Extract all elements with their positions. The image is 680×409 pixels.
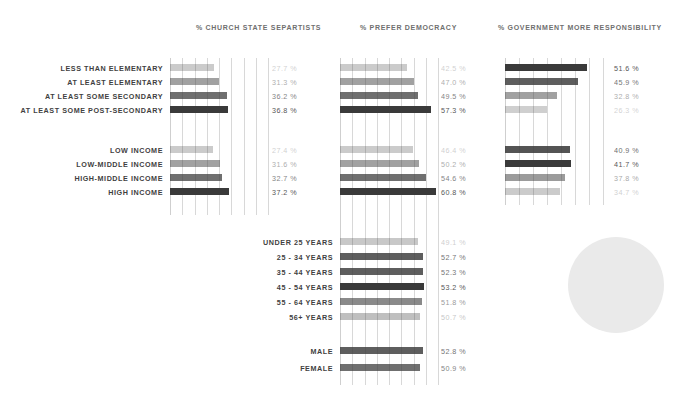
bar-value-gov_responsibility-1: 45.9 % — [614, 78, 639, 87]
bar-value-prefer_democracy-13: 50.7 % — [441, 313, 466, 322]
bar-value-prefer_democracy-8: 49.1 % — [441, 238, 466, 247]
row-label-age-4: 55 - 64 YEARS — [277, 298, 333, 307]
bar-value-gov_responsibility-7: 34.7 % — [614, 188, 639, 197]
row-label-age-1: 25 - 34 YEARS — [277, 253, 333, 262]
bar-gov_responsibility-3 — [505, 106, 547, 113]
row-label-education-3: AT LEAST SOME POST-SECONDARY — [21, 106, 163, 115]
bar-prefer_democracy-8 — [340, 238, 418, 245]
bar-value-gov_responsibility-2: 32.8 % — [614, 92, 639, 101]
bar-value-gov_responsibility-5: 41.7 % — [614, 160, 639, 169]
bar-value-prefer_democracy-9: 52.7 % — [441, 253, 466, 262]
bar-value-prefer_democracy-12: 51.8 % — [441, 298, 466, 307]
bar-prefer_democracy-15 — [340, 364, 420, 371]
bar-church_state-1 — [170, 78, 219, 85]
bar-value-church_state-3: 36.8 % — [272, 106, 297, 115]
bar-prefer_democracy-3 — [340, 106, 431, 113]
bar-value-prefer_democracy-6: 54.6 % — [441, 174, 466, 183]
bar-value-gov_responsibility-4: 40.9 % — [614, 146, 639, 155]
bar-value-church_state-7: 37.2 % — [272, 188, 297, 197]
row-label-income-1: LOW-MIDDLE INCOME — [76, 160, 163, 169]
bar-prefer_democracy-6 — [340, 174, 426, 181]
row-label-income-0: LOW INCOME — [110, 146, 163, 155]
bar-church_state-3 — [170, 106, 228, 113]
bar-gov_responsibility-5 — [505, 160, 571, 167]
bar-value-church_state-2: 36.2 % — [272, 92, 297, 101]
bar-value-prefer_democracy-15: 50.9 % — [441, 364, 466, 373]
bar-church_state-0 — [170, 64, 214, 71]
bar-value-church_state-5: 31.6 % — [272, 160, 297, 169]
bar-value-prefer_democracy-7: 60.8 % — [441, 188, 466, 197]
bar-prefer_democracy-11 — [340, 283, 424, 290]
bar-gov_responsibility-4 — [505, 146, 570, 153]
gridline — [438, 58, 439, 385]
column-title-gov_responsibility: % GOVERNMENT MORE RESPONSIBILITY — [498, 24, 662, 31]
bar-value-church_state-0: 27.7 % — [272, 64, 297, 73]
row-label-age-2: 35 - 44 YEARS — [277, 268, 333, 277]
bar-church_state-4 — [170, 146, 213, 153]
bar-church_state-6 — [170, 174, 222, 181]
bar-prefer_democracy-14 — [340, 347, 423, 354]
gridline — [268, 58, 269, 215]
row-label-gender-0: MALE — [310, 347, 333, 356]
circle-blob — [568, 237, 664, 333]
bar-value-prefer_democracy-2: 49.5 % — [441, 92, 466, 101]
bar-value-prefer_democracy-10: 52.3 % — [441, 268, 466, 277]
bar-value-prefer_democracy-1: 47.0 % — [441, 78, 466, 87]
bar-prefer_democracy-10 — [340, 268, 423, 275]
row-label-age-0: UNDER 25 YEARS — [263, 238, 333, 247]
bar-prefer_democracy-2 — [340, 92, 418, 99]
chart-canvas: % CHURCH STATE SEPARTISTS% PREFER DEMOCR… — [0, 0, 680, 409]
row-label-education-2: AT LEAST SOME SECONDARY — [45, 92, 163, 101]
row-label-education-1: AT LEAST ELEMENTARY — [67, 78, 163, 87]
bar-value-gov_responsibility-6: 37.8 % — [614, 174, 639, 183]
bar-value-prefer_democracy-5: 50.2 % — [441, 160, 466, 169]
bar-church_state-5 — [170, 160, 220, 167]
bar-gov_responsibility-0 — [505, 64, 587, 71]
row-label-age-5: 56+ YEARS — [289, 313, 333, 322]
bar-value-gov_responsibility-0: 51.6 % — [614, 64, 639, 73]
bar-value-prefer_democracy-11: 53.2 % — [441, 283, 466, 292]
gridline — [256, 58, 257, 215]
row-label-income-3: HIGH INCOME — [108, 188, 163, 197]
gridline — [231, 58, 232, 215]
bar-gov_responsibility-7 — [505, 188, 560, 195]
row-label-income-2: HIGH-MIDDLE INCOME — [74, 174, 163, 183]
bar-value-church_state-6: 32.7 % — [272, 174, 297, 183]
bar-church_state-2 — [170, 92, 227, 99]
bar-prefer_democracy-0 — [340, 64, 407, 71]
bar-church_state-7 — [170, 188, 229, 195]
bar-value-prefer_democracy-4: 46.4 % — [441, 146, 466, 155]
bar-prefer_democracy-1 — [340, 78, 414, 85]
bar-gov_responsibility-2 — [505, 92, 557, 99]
column-title-church_state: % CHURCH STATE SEPARTISTS — [196, 24, 321, 31]
gridline — [589, 58, 590, 205]
row-label-gender-1: FEMALE — [300, 364, 333, 373]
bar-prefer_democracy-7 — [340, 188, 436, 195]
bar-value-prefer_democracy-3: 57.3 % — [441, 106, 466, 115]
column-title-prefer_democracy: % PREFER DEMOCRACY — [360, 24, 457, 31]
bar-prefer_democracy-4 — [340, 146, 413, 153]
bar-value-gov_responsibility-3: 26.3 % — [614, 106, 639, 115]
bar-value-church_state-4: 27.4 % — [272, 146, 297, 155]
bar-gov_responsibility-6 — [505, 174, 565, 181]
gridline — [244, 58, 245, 215]
bar-prefer_democracy-5 — [340, 160, 419, 167]
bar-prefer_democracy-13 — [340, 313, 420, 320]
row-label-age-3: 45 - 54 YEARS — [277, 283, 333, 292]
row-label-education-0: LESS THAN ELEMENTARY — [61, 64, 163, 73]
bar-prefer_democracy-12 — [340, 298, 422, 305]
bar-gov_responsibility-1 — [505, 78, 578, 85]
bar-value-prefer_democracy-14: 52.8 % — [441, 347, 466, 356]
bar-value-church_state-1: 31.3 % — [272, 78, 297, 87]
bar-value-prefer_democracy-0: 42.5 % — [441, 64, 466, 73]
gridline — [603, 58, 604, 205]
bar-prefer_democracy-9 — [340, 253, 423, 260]
